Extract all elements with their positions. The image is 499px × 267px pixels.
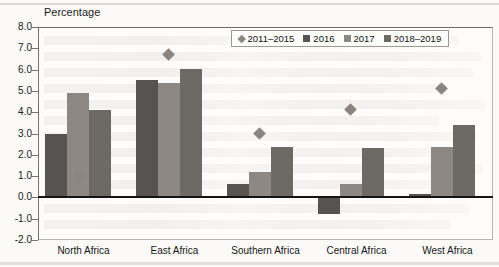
y-axis-tick-label: 4.0 — [0, 106, 32, 117]
chart-bar — [180, 69, 202, 198]
y-axis-tick-mark — [32, 240, 38, 241]
legend-square-icon — [303, 35, 310, 42]
chart-bar — [431, 147, 453, 197]
y-axis-tick-label: 2.0 — [0, 149, 32, 160]
chart-title: Percentage — [44, 6, 100, 18]
chart-bar — [89, 110, 111, 197]
x-axis-tick-label: Southern Africa — [220, 245, 311, 256]
chart-screenshot: Percentage 2011–2015201620172018–2019 8.… — [0, 0, 499, 267]
x-axis-tick-label: Central Africa — [311, 245, 402, 256]
chart-bar — [136, 80, 158, 197]
legend-item: 2017 — [344, 33, 375, 44]
y-axis-tick-label: 0.0 — [0, 191, 32, 202]
chart-bar — [45, 134, 67, 198]
y-axis-tick-label: -1.0 — [0, 213, 32, 224]
chart-bar — [318, 197, 340, 214]
legend-item-label: 2016 — [313, 33, 334, 44]
legend-item: 2011–2015 — [239, 33, 294, 44]
chart-legend: 2011–2015201620172018–2019 — [231, 30, 449, 47]
legend-item: 2016 — [303, 33, 334, 44]
zero-baseline — [38, 196, 493, 198]
y-axis-tick-mark — [32, 70, 38, 71]
y-axis-tick-mark — [32, 91, 38, 92]
chart-bar — [340, 184, 362, 198]
y-axis-tick-label: 6.0 — [0, 64, 32, 75]
chart-bar — [158, 83, 180, 197]
legend-item: 2018–2019 — [384, 33, 442, 44]
y-axis-tick-mark — [32, 27, 38, 28]
y-axis-tick-mark — [32, 48, 38, 49]
y-axis-tick-label: 8.0 — [0, 21, 32, 32]
legend-item-label: 2011–2015 — [248, 33, 295, 44]
y-axis-line — [38, 27, 39, 240]
legend-diamond-icon — [238, 35, 246, 43]
y-axis-tick-mark — [32, 155, 38, 156]
x-axis-tick-label: East Africa — [129, 245, 220, 256]
y-axis-tick-mark — [32, 134, 38, 135]
x-axis-tick-label: North Africa — [38, 245, 129, 256]
y-axis-tick-label: 1.0 — [0, 170, 32, 181]
chart-bar — [227, 184, 249, 198]
page-top-rule — [0, 3, 499, 5]
y-axis-tick-mark — [32, 219, 38, 220]
legend-square-icon — [344, 35, 351, 42]
y-axis-tick-label: 3.0 — [0, 128, 32, 139]
y-axis-tick-mark — [32, 176, 38, 177]
chart-bar — [362, 148, 384, 197]
chart-bar — [249, 172, 271, 198]
chart-bar — [271, 147, 293, 197]
y-axis-tick-label: 5.0 — [0, 85, 32, 96]
x-axis-tick-label: West Africa — [402, 245, 493, 256]
y-axis-tick-mark — [32, 112, 38, 113]
chart-bar — [453, 125, 475, 197]
y-axis-tick-label: 7.0 — [0, 42, 32, 53]
y-axis-tick-label: -2.0 — [0, 234, 32, 245]
legend-item-label: 2017 — [354, 33, 375, 44]
page-bottom-rule — [0, 262, 499, 265]
legend-square-icon — [384, 35, 391, 42]
legend-item-label: 2018–2019 — [394, 33, 442, 44]
